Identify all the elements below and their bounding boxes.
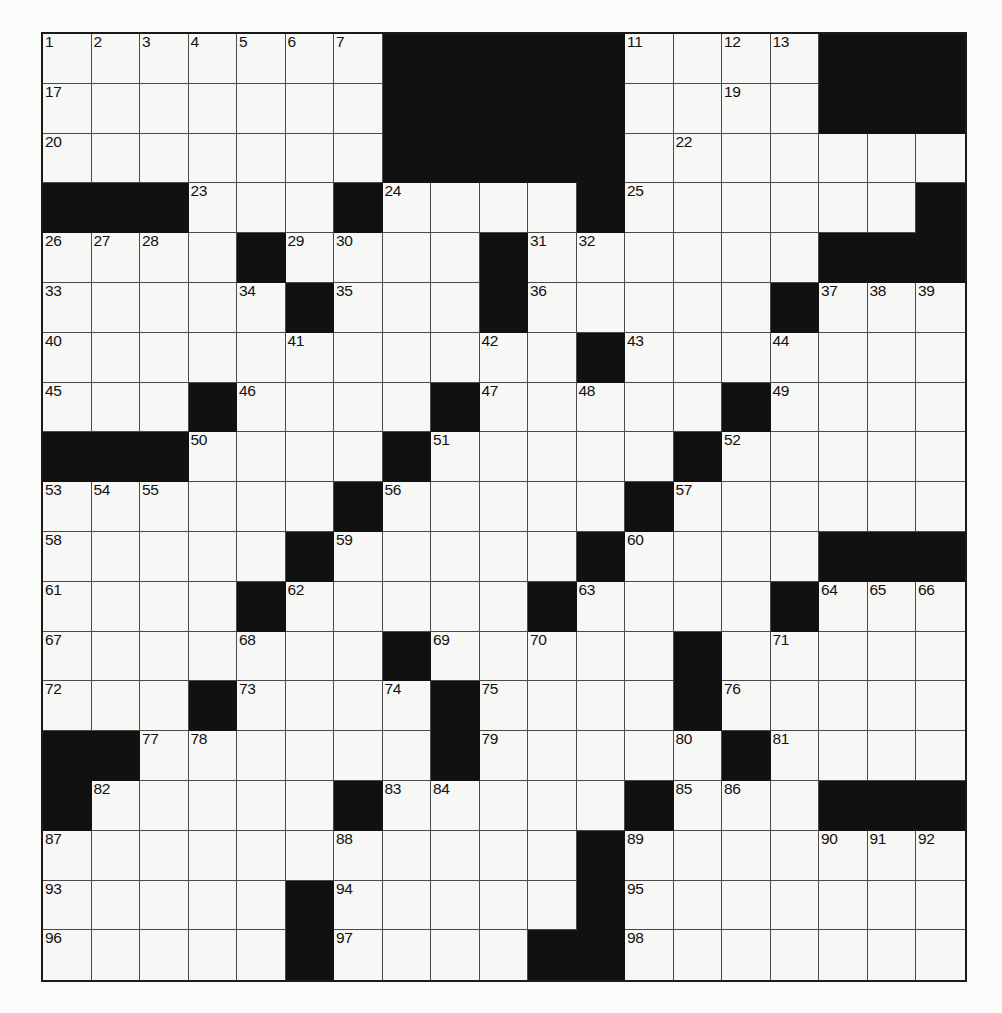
grid-letter-cell[interactable] [189, 632, 238, 682]
grid-letter-cell[interactable]: 73 [237, 681, 286, 731]
grid-letter-cell[interactable] [819, 183, 868, 233]
grid-letter-cell[interactable] [237, 881, 286, 931]
grid-letter-cell[interactable]: 32 [577, 233, 626, 283]
grid-letter-cell[interactable] [625, 731, 674, 781]
grid-letter-cell[interactable]: 41 [286, 333, 335, 383]
grid-letter-cell[interactable] [189, 781, 238, 831]
grid-letter-cell[interactable]: 81 [771, 731, 820, 781]
grid-letter-cell[interactable]: 61 [43, 582, 92, 632]
grid-letter-cell[interactable] [189, 482, 238, 532]
grid-letter-cell[interactable] [383, 930, 432, 980]
grid-letter-cell[interactable] [819, 482, 868, 532]
grid-letter-cell[interactable] [383, 233, 432, 283]
grid-letter-cell[interactable] [480, 831, 529, 881]
grid-letter-cell[interactable]: 42 [480, 333, 529, 383]
grid-letter-cell[interactable] [868, 183, 917, 233]
grid-letter-cell[interactable] [528, 681, 577, 731]
grid-letter-cell[interactable]: 36 [528, 283, 577, 333]
grid-letter-cell[interactable]: 2 [92, 34, 141, 84]
grid-letter-cell[interactable]: 95 [625, 881, 674, 931]
grid-letter-cell[interactable]: 34 [237, 283, 286, 333]
grid-letter-cell[interactable]: 59 [334, 532, 383, 582]
grid-letter-cell[interactable]: 96 [43, 930, 92, 980]
grid-letter-cell[interactable]: 11 [625, 34, 674, 84]
grid-letter-cell[interactable]: 37 [819, 283, 868, 333]
grid-letter-cell[interactable] [819, 881, 868, 931]
grid-letter-cell[interactable] [868, 632, 917, 682]
grid-letter-cell[interactable]: 40 [43, 333, 92, 383]
grid-letter-cell[interactable] [431, 283, 480, 333]
grid-letter-cell[interactable]: 77 [140, 731, 189, 781]
grid-letter-cell[interactable] [334, 333, 383, 383]
grid-letter-cell[interactable] [722, 532, 771, 582]
grid-letter-cell[interactable]: 29 [286, 233, 335, 283]
grid-letter-cell[interactable]: 26 [43, 233, 92, 283]
grid-letter-cell[interactable] [286, 831, 335, 881]
grid-letter-cell[interactable] [674, 881, 723, 931]
grid-letter-cell[interactable] [819, 333, 868, 383]
grid-letter-cell[interactable] [92, 134, 141, 184]
grid-letter-cell[interactable] [771, 482, 820, 532]
grid-letter-cell[interactable] [92, 532, 141, 582]
grid-letter-cell[interactable] [819, 134, 868, 184]
grid-letter-cell[interactable] [916, 881, 965, 931]
grid-letter-cell[interactable] [674, 831, 723, 881]
grid-letter-cell[interactable] [819, 383, 868, 433]
grid-letter-cell[interactable] [286, 432, 335, 482]
grid-letter-cell[interactable] [771, 781, 820, 831]
grid-letter-cell[interactable] [916, 383, 965, 433]
grid-letter-cell[interactable]: 93 [43, 881, 92, 931]
grid-letter-cell[interactable]: 19 [722, 84, 771, 134]
grid-letter-cell[interactable]: 67 [43, 632, 92, 682]
grid-letter-cell[interactable]: 84 [431, 781, 480, 831]
grid-letter-cell[interactable] [674, 383, 723, 433]
grid-letter-cell[interactable] [140, 681, 189, 731]
grid-letter-cell[interactable]: 71 [771, 632, 820, 682]
grid-letter-cell[interactable] [383, 383, 432, 433]
grid-letter-cell[interactable] [577, 482, 626, 532]
grid-letter-cell[interactable]: 43 [625, 333, 674, 383]
grid-letter-cell[interactable]: 88 [334, 831, 383, 881]
grid-letter-cell[interactable] [722, 134, 771, 184]
grid-letter-cell[interactable]: 78 [189, 731, 238, 781]
grid-letter-cell[interactable] [140, 781, 189, 831]
grid-letter-cell[interactable] [722, 930, 771, 980]
grid-letter-cell[interactable] [771, 831, 820, 881]
grid-letter-cell[interactable] [237, 930, 286, 980]
grid-letter-cell[interactable]: 72 [43, 681, 92, 731]
grid-letter-cell[interactable] [237, 333, 286, 383]
grid-letter-cell[interactable] [92, 930, 141, 980]
grid-letter-cell[interactable] [237, 831, 286, 881]
grid-letter-cell[interactable] [92, 881, 141, 931]
grid-letter-cell[interactable] [334, 731, 383, 781]
grid-letter-cell[interactable] [819, 731, 868, 781]
grid-letter-cell[interactable] [868, 383, 917, 433]
grid-letter-cell[interactable] [674, 333, 723, 383]
grid-letter-cell[interactable] [189, 930, 238, 980]
grid-letter-cell[interactable]: 47 [480, 383, 529, 433]
grid-letter-cell[interactable] [480, 183, 529, 233]
grid-letter-cell[interactable]: 30 [334, 233, 383, 283]
grid-letter-cell[interactable] [140, 582, 189, 632]
grid-letter-cell[interactable] [189, 582, 238, 632]
grid-letter-cell[interactable] [916, 134, 965, 184]
grid-letter-cell[interactable] [674, 930, 723, 980]
grid-letter-cell[interactable] [431, 582, 480, 632]
grid-letter-cell[interactable] [722, 881, 771, 931]
grid-letter-cell[interactable]: 56 [383, 482, 432, 532]
grid-letter-cell[interactable] [334, 134, 383, 184]
grid-letter-cell[interactable] [237, 183, 286, 233]
grid-letter-cell[interactable]: 76 [722, 681, 771, 731]
grid-letter-cell[interactable] [92, 831, 141, 881]
grid-letter-cell[interactable]: 64 [819, 582, 868, 632]
grid-letter-cell[interactable] [334, 432, 383, 482]
grid-letter-cell[interactable]: 94 [334, 881, 383, 931]
grid-letter-cell[interactable] [771, 930, 820, 980]
grid-letter-cell[interactable] [383, 283, 432, 333]
grid-letter-cell[interactable] [140, 930, 189, 980]
grid-letter-cell[interactable] [286, 632, 335, 682]
grid-letter-cell[interactable] [722, 283, 771, 333]
grid-letter-cell[interactable]: 3 [140, 34, 189, 84]
grid-letter-cell[interactable] [480, 532, 529, 582]
grid-letter-cell[interactable]: 98 [625, 930, 674, 980]
